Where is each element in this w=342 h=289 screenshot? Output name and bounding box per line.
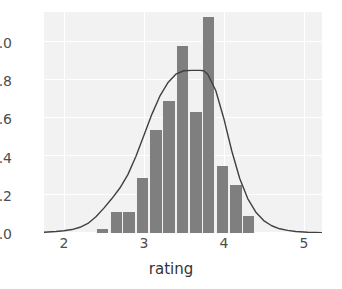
- y-axis-tick-label: 0.8: [0, 74, 12, 88]
- histogram-bar: [110, 212, 123, 233]
- gridline-horizontal: [44, 41, 322, 42]
- x-axis-tick-label: 5: [289, 236, 319, 250]
- plot-panel: [44, 12, 322, 233]
- gridline-vertical: [304, 12, 305, 233]
- histogram-bar: [122, 212, 135, 233]
- x-axis-tick-label: 2: [49, 236, 79, 250]
- x-axis-title: rating: [0, 260, 342, 278]
- y-axis-tick-label: 0.6: [0, 112, 12, 126]
- y-axis-tick-label: 0.0: [0, 227, 12, 241]
- x-axis-tick-label: 3: [129, 236, 159, 250]
- y-axis-tick-label: 0.4: [0, 151, 12, 165]
- gridline-vertical: [64, 12, 65, 233]
- histogram-bar: [242, 216, 255, 233]
- x-axis-tick-label: 4: [209, 236, 239, 250]
- histogram-bar: [149, 130, 162, 233]
- histogram-bar: [162, 101, 175, 233]
- histogram-bar: [176, 46, 189, 234]
- histogram-bar: [189, 112, 202, 233]
- histogram-bar: [229, 185, 242, 233]
- y-axis-tick-label: 0.2: [0, 189, 12, 203]
- histogram-figure: 1.0 0.8 0.6 0.4 0.2 0.0: [0, 0, 342, 289]
- histogram-bar: [202, 17, 215, 233]
- histogram-bar: [216, 166, 229, 233]
- histogram-bar: [96, 229, 109, 233]
- histogram-bar: [136, 178, 149, 233]
- y-axis-tick-label: 1.0: [0, 36, 12, 50]
